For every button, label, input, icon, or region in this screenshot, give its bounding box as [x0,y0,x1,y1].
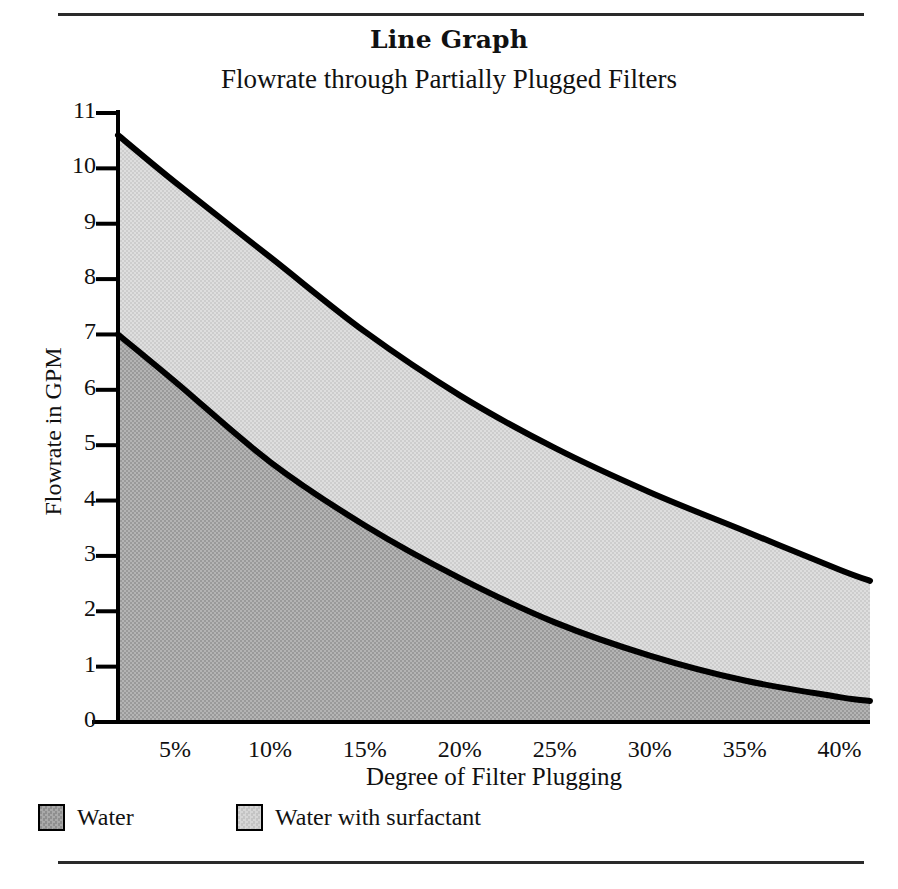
chart-legend: Water Water with surfactant [38,804,858,844]
plot-area: 01234567891011 5%10%15%20%25%30%35%40% F… [0,0,898,889]
y-tick-label: 8 [40,263,96,290]
y-axis-title: Flowrate in GPM [40,317,67,547]
x-tick-label: 10% [230,736,310,763]
bottom-rule [58,861,864,864]
line-graph-figure: Line Graph Flowrate through Partially Pl… [0,0,898,889]
x-tick-label: 35% [705,736,785,763]
legend-item-water-with-surfactant: Water with surfactant [236,804,481,831]
y-tick-label: 9 [40,208,96,235]
y-tick-label: 10 [40,152,96,179]
y-axis-ticks [96,113,118,722]
legend-label-water: Water [77,804,134,831]
legend-label-water-with-surfactant: Water with surfactant [275,804,481,831]
y-tick-label: 11 [40,97,96,124]
x-tick-label: 15% [325,736,405,763]
legend-swatch-water-with-surfactant [236,804,263,831]
legend-swatch-water [38,804,65,831]
x-tick-label: 20% [420,736,500,763]
legend-item-water: Water [38,804,134,831]
y-tick-label: 0 [40,706,96,733]
x-tick-label: 25% [515,736,595,763]
x-tick-label: 30% [610,736,690,763]
x-axis-title: Degree of Filter Plugging [118,763,870,791]
y-tick-label: 2 [40,595,96,622]
x-tick-label: 40% [800,736,880,763]
y-tick-label: 1 [40,651,96,678]
x-tick-label: 5% [135,736,215,763]
